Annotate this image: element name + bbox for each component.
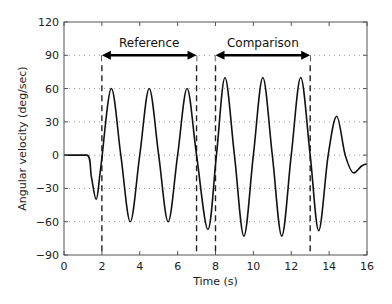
angular-velocity-chart: ReferenceComparison 0246810121416 −90−60… <box>0 0 392 304</box>
x-tick-label: 6 <box>174 260 181 273</box>
x-tick-label: 12 <box>284 260 298 273</box>
x-tick-label: 16 <box>360 260 374 273</box>
annotation-label: Reference <box>119 36 179 50</box>
y-tick-label: −60 <box>36 216 59 229</box>
x-tick-label: 8 <box>212 260 219 273</box>
x-tick-label: 14 <box>322 260 336 273</box>
x-axis-label: Time (s) <box>192 275 238 288</box>
y-tick-label: −90 <box>36 249 59 262</box>
y-tick-label: 30 <box>45 116 59 129</box>
x-tick-label: 10 <box>246 260 260 273</box>
x-tick-label: 0 <box>61 260 68 273</box>
annotation-arrows: ReferenceComparison <box>102 36 310 61</box>
annotation-label: Comparison <box>227 36 299 50</box>
x-tick-label: 4 <box>136 260 143 273</box>
y-tick-label: 120 <box>38 16 59 29</box>
annotation-reference: Reference <box>102 36 197 61</box>
y-tick-label: 0 <box>52 149 59 162</box>
y-axis-label: Angular velocity (deg/sec) <box>16 66 29 210</box>
y-tick-label: 90 <box>45 49 59 62</box>
x-tick-label: 2 <box>98 260 105 273</box>
y-tick-label: −30 <box>36 182 59 195</box>
y-tick-label: 60 <box>45 83 59 96</box>
annotation-comparison: Comparison <box>216 36 311 61</box>
